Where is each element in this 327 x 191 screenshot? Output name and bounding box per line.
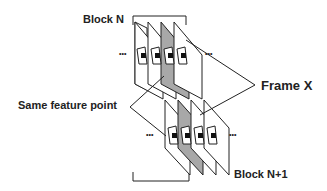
block-n-bracket (133, 16, 186, 25)
diagram-canvas (0, 0, 327, 191)
block-n1-bracket (133, 172, 189, 181)
frame-x-label: Frame X (261, 78, 312, 93)
ellipsis-bottom-right: ••• (229, 131, 236, 138)
block-n-label: Block N (83, 13, 124, 25)
ellipsis-bottom-left: ••• (146, 131, 153, 138)
ellipsis-top-right: ••• (205, 50, 212, 57)
same-feature-point-label: Same feature point (18, 99, 117, 111)
frame-x-leader-bottom (200, 85, 255, 115)
block-n1-label: Block N+1 (234, 168, 288, 180)
ellipsis-top-left: ••• (119, 50, 126, 57)
feature-point (141, 53, 146, 58)
